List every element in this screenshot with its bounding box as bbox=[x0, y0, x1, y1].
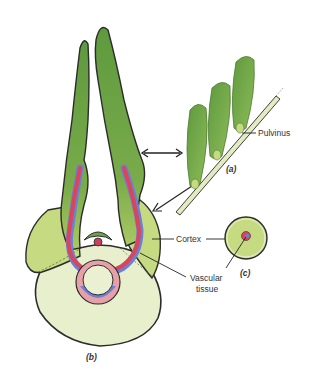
diagram-svg: (b) Pulvinus (a) Cortex Vascular tissue bbox=[0, 0, 318, 375]
bud-vascular bbox=[94, 238, 102, 246]
leaflet-3 bbox=[232, 56, 254, 131]
panel-label-c: (c) bbox=[240, 268, 251, 278]
panel-c-pulvinus-section: (c) bbox=[225, 217, 267, 278]
panel-a-stem-with-leaflets: Pulvinus (a) bbox=[176, 56, 290, 215]
panel-b-cross-section: (b) bbox=[26, 28, 161, 362]
panel-label-a: (a) bbox=[226, 164, 237, 174]
pulvinus-3 bbox=[236, 123, 244, 133]
leaflet-2 bbox=[208, 82, 230, 159]
label-pulvinus: Pulvinus bbox=[258, 128, 290, 138]
central-ring-inner bbox=[83, 265, 113, 295]
pulvinus-diagram: (b) Pulvinus (a) Cortex Vascular tissue bbox=[0, 0, 318, 375]
pulvinus-1 bbox=[191, 179, 199, 189]
label-vascular-1: Vascular bbox=[190, 273, 223, 283]
leaflet-1 bbox=[187, 104, 207, 187]
pulvinus-2 bbox=[213, 150, 221, 160]
label-cortex: Cortex bbox=[176, 234, 202, 244]
panel-label-b: (b) bbox=[86, 352, 97, 362]
label-vascular-2: tissue bbox=[196, 284, 218, 294]
double-arrow bbox=[142, 149, 182, 157]
